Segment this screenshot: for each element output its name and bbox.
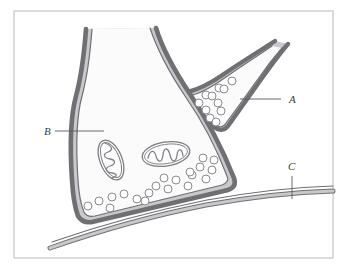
- synaptic-vesicle: [199, 154, 207, 162]
- synaptic-vesicle: [84, 202, 92, 210]
- synaptic-vesicle: [214, 99, 222, 107]
- synaptic-vesicle: [195, 99, 203, 107]
- synaptic-vesicle: [152, 182, 160, 190]
- label-b: B: [44, 125, 51, 137]
- synaptic-vesicle: [164, 185, 172, 193]
- synapse-diagram: ABC: [0, 0, 347, 270]
- synaptic-vesicle: [145, 189, 153, 197]
- synaptic-vesicle: [141, 197, 149, 205]
- synaptic-vesicle: [172, 176, 180, 184]
- label-a: A: [288, 93, 296, 105]
- synaptic-vesicle: [186, 168, 194, 176]
- synaptic-vesicle: [210, 156, 218, 164]
- synaptic-vesicle: [184, 182, 192, 190]
- synaptic-vesicle: [95, 197, 103, 205]
- synaptic-vesicle: [160, 174, 168, 182]
- synaptic-vesicle: [133, 195, 141, 203]
- synaptic-vesicle: [220, 85, 228, 93]
- synaptic-vesicle: [120, 190, 128, 198]
- synaptic-vesicle: [228, 77, 236, 85]
- synaptic-vesicle: [106, 204, 114, 212]
- synaptic-vesicle: [212, 118, 220, 126]
- synaptic-vesicle: [202, 106, 210, 114]
- synaptic-vesicle: [108, 193, 116, 201]
- synaptic-vesicle: [196, 163, 204, 171]
- synaptic-vesicle: [202, 175, 210, 183]
- synaptic-vesicle: [208, 92, 216, 100]
- synaptic-vesicle: [208, 166, 216, 174]
- label-c: C: [288, 160, 296, 172]
- figure-root: ABC: [0, 0, 347, 270]
- synaptic-vesicle: [217, 107, 225, 115]
